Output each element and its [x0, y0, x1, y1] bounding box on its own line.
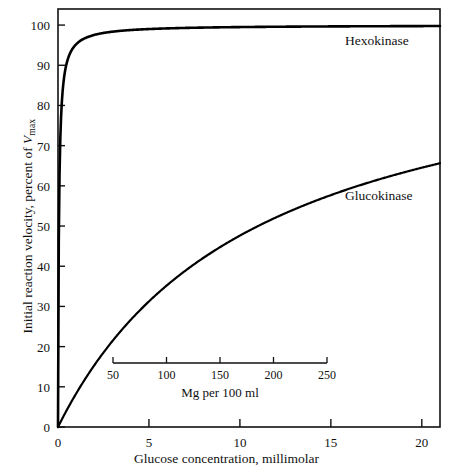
chart-figure: 0102030405060708090100 05101520 50100150… — [0, 0, 453, 472]
curve-label-hexokinase: Hexokinase — [345, 34, 409, 48]
x-tick-label-5: 5 — [146, 436, 153, 449]
inset-axis-title: Mg per 100 ml — [113, 386, 327, 399]
y-axis-title: Initial reaction velocity, percent of Vm… — [21, 76, 37, 376]
inset-axis — [113, 357, 327, 363]
y-tick-label-100: 100 — [8, 19, 50, 32]
y-axis-title-prefix: Initial reaction velocity, percent of — [20, 144, 35, 334]
curve-hexokinase — [58, 26, 440, 427]
vmax-symbol: Vmax — [20, 119, 35, 144]
vmax-subscript: max — [26, 119, 37, 136]
inset-tick-label-150: 150 — [211, 369, 229, 381]
x-axis-ticks — [58, 419, 422, 427]
inset-tick-label-250: 250 — [318, 369, 336, 381]
inset-tick-label-50: 50 — [107, 369, 119, 381]
x-tick-label-20: 20 — [415, 436, 428, 449]
plot-frame — [58, 9, 440, 427]
y-tick-label-0: 0 — [8, 421, 50, 434]
x-tick-label-15: 15 — [324, 436, 337, 449]
y-tick-label-90: 90 — [8, 59, 50, 72]
x-axis-title: Glucose concentration, millimolar — [0, 452, 453, 466]
inset-tick-label-200: 200 — [265, 369, 283, 381]
plot-canvas — [0, 0, 453, 472]
data-curves — [58, 26, 440, 427]
inset-tick-label-100: 100 — [158, 369, 176, 381]
vmax-letter: V — [20, 136, 35, 144]
y-tick-label-10: 10 — [8, 380, 50, 393]
x-tick-label-10: 10 — [233, 436, 246, 449]
x-tick-label-0: 0 — [55, 436, 62, 449]
curve-label-glucokinase: Glucokinase — [345, 189, 412, 203]
